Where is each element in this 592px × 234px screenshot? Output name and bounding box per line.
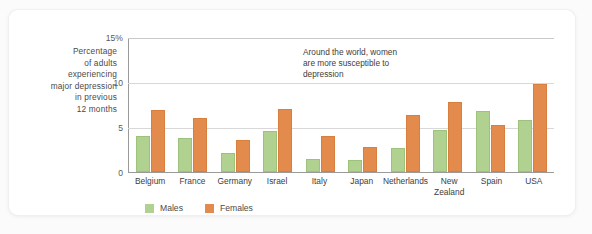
x-axis-tick-label-line: Italy (298, 176, 340, 187)
y-axis-label-line: in previous (27, 92, 117, 104)
x-axis-tick-label: Israel (256, 176, 298, 197)
y-axis-tick-label: 15% (106, 33, 123, 43)
y-axis-label-line: experiencing (27, 69, 117, 81)
bar-netherlands-females[interactable] (406, 115, 420, 172)
x-axis-tick-label: NewZealand (428, 176, 470, 197)
x-axis-tick-label: Japan (341, 176, 383, 197)
x-axis-tick-label-line: Spain (470, 176, 512, 187)
x-axis-tick-label-line: Germany (214, 176, 256, 187)
bar-israel-males[interactable] (263, 131, 277, 172)
x-axis-tick-label-line: New (428, 176, 470, 187)
x-axis-tick-label-line: Israel (256, 176, 298, 187)
bar-italy-females[interactable] (321, 136, 335, 172)
y-axis-tick-label: 5 (118, 123, 123, 133)
y-axis-label-line: of adults (27, 58, 117, 70)
chart-legend: MalesFemales (145, 203, 253, 213)
legend-item-males[interactable]: Males (145, 203, 183, 213)
annotation-line: depression (303, 69, 443, 80)
x-axis-tick-label: Spain (470, 176, 512, 197)
x-axis-tick-label: Italy (298, 176, 340, 197)
bar-new-zealand-females[interactable] (448, 102, 462, 172)
bar-france-males[interactable] (178, 138, 192, 172)
x-axis-ticks: BelgiumFranceGermanyIsraelItalyJapanNeth… (129, 176, 555, 197)
x-axis-tick-label-line: USA (513, 176, 555, 187)
legend-swatch-icon (205, 204, 214, 213)
x-axis-line (128, 172, 554, 173)
chart-card: Percentage of adults experiencing major … (9, 10, 575, 215)
bar-japan-females[interactable] (363, 147, 377, 172)
bar-italy-males[interactable] (306, 159, 320, 172)
bar-usa-males[interactable] (518, 120, 532, 172)
legend-label: Males (160, 203, 183, 213)
bar-germany-females[interactable] (236, 140, 250, 172)
y-axis-label-line: major depression (27, 81, 117, 93)
bar-spain-females[interactable] (491, 125, 505, 172)
x-axis-tick-label: Netherlands (383, 176, 428, 197)
y-axis-label: Percentage of adults experiencing major … (27, 46, 117, 116)
y-axis-tick-label: 10 (113, 78, 123, 88)
bar-israel-females[interactable] (278, 109, 292, 172)
chart-annotation: Around the world, women are more suscept… (303, 47, 443, 81)
bar-chart: Percentage of adults experiencing major … (9, 10, 575, 215)
annotation-line: are more susceptible to (303, 58, 443, 69)
bar-netherlands-males[interactable] (391, 148, 405, 172)
bar-belgium-females[interactable] (151, 110, 165, 172)
legend-label: Females (220, 203, 253, 213)
x-axis-tick-label-line: Netherlands (383, 176, 428, 187)
legend-swatch-icon (145, 204, 154, 213)
bar-group (469, 38, 512, 172)
bar-group (512, 38, 555, 172)
x-axis-tick-label-line: Japan (341, 176, 383, 187)
y-axis-label-line: Percentage (27, 46, 117, 58)
bar-germany-males[interactable] (221, 153, 235, 172)
bar-group (257, 38, 300, 172)
x-axis-tick-label-line: Zealand (428, 187, 470, 198)
x-axis-tick-label: France (171, 176, 213, 197)
y-axis-tick-label: 0 (118, 168, 123, 178)
bar-france-females[interactable] (193, 118, 207, 172)
x-axis-tick-label-line: Belgium (129, 176, 171, 187)
bar-group (129, 38, 172, 172)
x-axis-tick-label: Belgium (129, 176, 171, 197)
bar-spain-males[interactable] (476, 111, 490, 172)
x-axis-tick-label: Germany (214, 176, 256, 197)
bar-japan-males[interactable] (348, 160, 362, 173)
x-axis-tick-label: USA (513, 176, 555, 197)
bar-group (214, 38, 257, 172)
legend-item-females[interactable]: Females (205, 203, 253, 213)
y-axis-label-line: 12 months (27, 104, 117, 116)
bar-belgium-males[interactable] (136, 136, 150, 172)
annotation-line: Around the world, women (303, 47, 443, 58)
bar-usa-females[interactable] (533, 84, 547, 172)
bar-new-zealand-males[interactable] (433, 130, 447, 172)
x-axis-tick-label-line: France (171, 176, 213, 187)
bar-group (172, 38, 215, 172)
